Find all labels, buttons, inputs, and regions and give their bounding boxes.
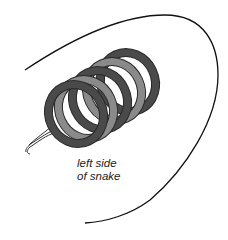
caption-label: left side of snake: [77, 157, 120, 183]
caption-line-2: of snake: [77, 170, 120, 183]
snake-ring-diagram: [0, 0, 228, 240]
rings: [39, 43, 165, 152]
caption-line-1: left side: [77, 157, 120, 170]
